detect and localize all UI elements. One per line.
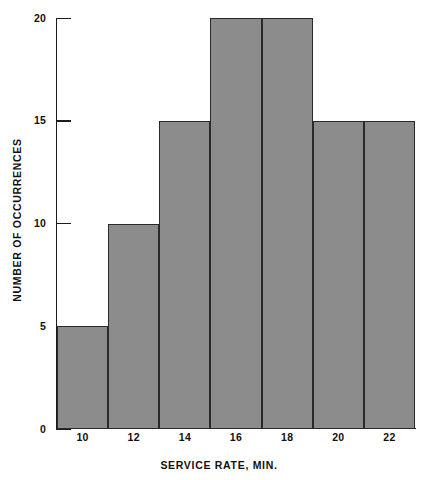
- x-axis-title: SERVICE RATE, MIN.: [0, 459, 438, 471]
- bar-16: [210, 18, 261, 429]
- bars-group: [57, 18, 415, 429]
- x-tick-label-18: 18: [262, 431, 313, 443]
- x-tick-label-14: 14: [159, 431, 210, 443]
- x-tick-label-16: 16: [210, 431, 261, 443]
- bar-22: [364, 121, 415, 429]
- y-axis-title-wrap: NUMBER OF OCCURRENCES: [4, 0, 30, 440]
- histogram-figure: 0 5 10 15 20 10 12 14 16 18 20 22 SERVIC: [0, 0, 438, 480]
- bar-14: [159, 121, 210, 429]
- bar-20: [313, 121, 364, 429]
- x-tick-label-20: 20: [313, 431, 364, 443]
- bar-10: [57, 326, 108, 429]
- plot-area: 0 5 10 15 20 10 12 14 16 18 20 22 SERVIC: [0, 0, 438, 480]
- bar-12: [108, 224, 159, 430]
- bar-18: [262, 18, 313, 429]
- x-tick-labels: 10 12 14 16 18 20 22: [57, 431, 415, 447]
- x-tick-label-10: 10: [57, 431, 108, 443]
- x-tick-label-22: 22: [364, 431, 415, 443]
- x-tick-label-12: 12: [108, 431, 159, 443]
- y-axis-title: NUMBER OF OCCURRENCES: [11, 138, 23, 301]
